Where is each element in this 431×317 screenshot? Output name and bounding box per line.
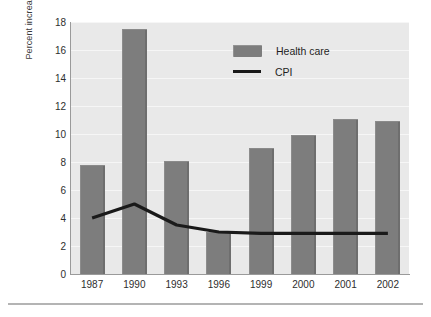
y-axis-tick-label: 6: [20, 185, 66, 196]
y-axis-tick-label: 4: [20, 213, 66, 224]
y-axis-tick-label: 14: [20, 73, 66, 84]
x-axis-tick-label: 1999: [250, 279, 272, 290]
y-axis-tick-label: 10: [20, 129, 66, 140]
x-axis-tick-labels: 19871990199319961999200020012002: [71, 279, 409, 299]
y-axis-tick-label: 2: [20, 241, 66, 252]
x-axis-tick-label: 1996: [208, 279, 230, 290]
y-axis-tick-label: 8: [20, 157, 66, 168]
x-axis-tick-label: 1987: [81, 279, 103, 290]
legend-line-swatch-icon: [233, 70, 261, 73]
y-axis-tick-label: 18: [20, 17, 66, 28]
x-axis-tick-label: 1990: [123, 279, 145, 290]
y-axis-tick-label: 16: [20, 45, 66, 56]
y-axis-tick-label: 12: [20, 101, 66, 112]
x-axis-line: [70, 274, 410, 275]
legend-item-health-care: Health care: [233, 40, 383, 61]
legend-label-cpi: CPI: [275, 66, 293, 78]
x-axis-tick-label: 2000: [292, 279, 314, 290]
y-axis-line: [70, 22, 71, 275]
legend-bar-swatch-icon: [233, 45, 262, 57]
y-axis-tick-labels: 024681012141618: [14, 22, 66, 274]
legend-label-health-care: Health care: [276, 45, 330, 57]
chart-legend: Health care CPI: [233, 40, 383, 82]
legend-item-cpi: CPI: [233, 61, 383, 82]
chart-figure: Percent increase 024681012141618 1987199…: [0, 0, 431, 317]
x-axis-tick-label: 1993: [166, 279, 188, 290]
x-axis-tick-label: 2001: [335, 279, 357, 290]
footer-rule: [8, 303, 423, 305]
y-axis-tick-label: 0: [20, 269, 66, 280]
cpi-polyline: [92, 204, 388, 233]
x-axis-tick-label: 2002: [377, 279, 399, 290]
